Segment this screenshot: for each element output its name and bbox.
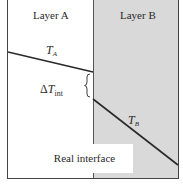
delta-prefix: Δ — [40, 82, 48, 96]
delta-subscript: int — [54, 89, 62, 98]
delta-brace-icon — [85, 74, 91, 97]
thermal-interface-diagram: Real interface Layer A Layer B TA TB ΔTi… — [0, 0, 183, 184]
tb-temperature-line — [93, 99, 178, 165]
layer-b-label: Layer B — [120, 10, 156, 21]
ta-label: TA — [46, 44, 57, 58]
delta-t-int-label: ΔTint — [40, 83, 63, 98]
tb-symbol: T — [128, 113, 135, 127]
tb-subscript: B — [135, 120, 139, 128]
temperature-profile-lines — [0, 0, 183, 184]
tb-label: TB — [128, 114, 139, 128]
ta-symbol: T — [46, 43, 53, 57]
layer-a-label: Layer A — [33, 10, 69, 21]
ta-subscript: A — [53, 50, 57, 58]
